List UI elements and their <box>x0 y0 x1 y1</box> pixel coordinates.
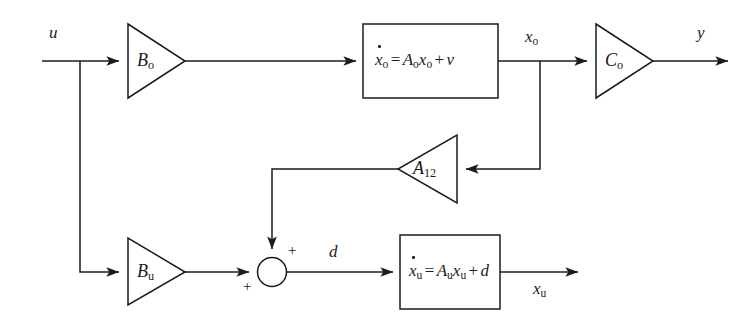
label-input-u: u <box>49 24 58 41</box>
label-gain-bu: Bu <box>137 262 154 283</box>
unobs-lhs-var: x <box>409 261 417 280</box>
label-unobservable-equation: xu=Auxu+d <box>409 262 489 282</box>
shape-summing-junction <box>258 258 287 287</box>
gain-co-base: C <box>605 50 617 70</box>
unobs-matrix: A <box>437 261 447 280</box>
label-gain-bo: Bo <box>137 51 154 72</box>
xu-subscript: u <box>541 287 547 300</box>
label-observable-equation: xo=Aoxo+ν <box>375 51 454 71</box>
gain-co-subscript: o <box>617 58 623 72</box>
label-output-y: y <box>697 24 705 41</box>
gain-a12-subscript: 12 <box>424 166 436 180</box>
unobs-plus-sign: + <box>466 261 480 280</box>
gain-bu-subscript: u <box>148 269 154 283</box>
block-diagram: u Bo xo=Aoxo+ν xo Co y A12 Bu + + d xu=A… <box>0 0 742 322</box>
wire-xo-to-a12 <box>466 61 540 169</box>
label-gain-co: Co <box>605 51 623 72</box>
obs-plus-sign: + <box>432 50 446 69</box>
wire-a12-to-sum <box>272 169 398 249</box>
label-state-xo: xo <box>525 28 538 48</box>
obs-addend: ν <box>447 50 455 69</box>
label-gain-a12: A12 <box>413 159 436 180</box>
xo-base: x <box>525 27 533 46</box>
gain-bo-base: B <box>137 50 148 70</box>
unobs-addend: d <box>481 261 490 280</box>
obs-matrix: A <box>403 50 413 69</box>
label-sum-sign-top: + <box>288 243 296 258</box>
xo-subscript: o <box>533 35 539 48</box>
wire-u-branch-to-bu <box>80 61 119 272</box>
obs-equals-sign: = <box>388 50 402 69</box>
label-sum-sign-left: + <box>243 279 251 294</box>
unobs-equals-sign: = <box>422 261 436 280</box>
label-disturbance-d: d <box>329 243 338 260</box>
obs-lhs-var: x <box>375 50 383 69</box>
gain-bu-base: B <box>137 261 148 281</box>
gain-bo-subscript: o <box>148 58 154 72</box>
gain-a12-base: A <box>413 158 424 178</box>
xu-base: x <box>533 279 541 298</box>
label-state-xu: xu <box>533 280 546 300</box>
diagram-canvas <box>0 0 742 322</box>
